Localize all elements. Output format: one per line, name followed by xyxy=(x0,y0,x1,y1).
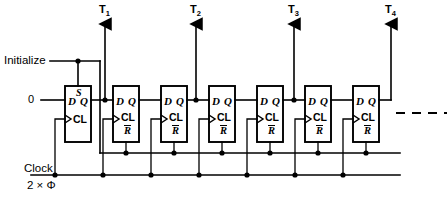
junction-clock-ff7 xyxy=(340,172,345,177)
ff3-q-label: Q xyxy=(176,96,184,107)
ff2-d-label: D xyxy=(116,96,124,107)
junction-reset-ff7 xyxy=(363,150,368,155)
wire-clock-ff5 xyxy=(247,119,257,175)
ff7-q-label: Q xyxy=(368,96,376,107)
ff1-clock-label: CL xyxy=(73,114,87,125)
junction-clock-ff5 xyxy=(244,172,249,177)
input-label-data-zero: 0 xyxy=(28,94,34,105)
ff2-reset-label: R xyxy=(124,125,131,137)
junction-clock-ff4 xyxy=(196,172,201,177)
wire-clock-ff4 xyxy=(199,119,209,175)
ff7-clock-label: CL xyxy=(361,112,375,123)
input-label-clock-rate: 2 × Φ xyxy=(27,180,56,192)
ff2-q-label: Q xyxy=(128,96,136,107)
ff4-clock-label: CL xyxy=(217,112,231,123)
ff5-d-label: D xyxy=(260,96,268,107)
junction-reset-ff5 xyxy=(267,150,272,155)
junction-clock-ff3 xyxy=(148,172,153,177)
ff1-q-label: Q xyxy=(80,96,88,107)
circuit-diagram: T1 T2 T3 T4 Initialize 0 Clock 2 × Φ S D… xyxy=(0,0,447,199)
ff3-d-label: D xyxy=(164,96,172,107)
ff7-d-label: D xyxy=(356,96,364,107)
junction-tap-t3 xyxy=(291,97,296,102)
wire-clock-ff1 xyxy=(55,119,65,175)
junction-clock-ff6 xyxy=(292,172,297,177)
wire-clock-ff6 xyxy=(295,119,305,175)
wire-clock-ff3 xyxy=(151,119,161,175)
junction-reset-ff2 xyxy=(123,150,128,155)
junction-clock-ff1 xyxy=(52,172,57,177)
junction-reset-ff3 xyxy=(171,150,176,155)
output-label-t3: T3 xyxy=(288,4,299,18)
ff3-clock-label: CL xyxy=(169,112,183,123)
ff5-reset-label: R xyxy=(268,125,275,137)
ff2-clock-label: CL xyxy=(121,112,135,123)
ff4-reset-label: R xyxy=(220,125,227,137)
junction-tap-t1 xyxy=(102,97,107,102)
wire-clock-ff7 xyxy=(343,119,353,175)
output-label-t2: T2 xyxy=(190,4,201,18)
input-label-initialize: Initialize xyxy=(4,55,46,67)
junction-tap-t2 xyxy=(193,97,198,102)
output-label-t1: T1 xyxy=(99,4,110,18)
wire-clock-ff2 xyxy=(103,119,113,175)
ff5-q-label: Q xyxy=(272,96,280,107)
junction-clock-ff2 xyxy=(100,172,105,177)
input-label-clock: Clock xyxy=(24,163,53,175)
ff4-q-label: Q xyxy=(224,96,232,107)
ff3-reset-label: R xyxy=(172,125,179,137)
ff6-reset-label: R xyxy=(316,125,323,137)
ff6-clock-label: CL xyxy=(313,112,327,123)
ff7-reset-label: R xyxy=(364,125,371,137)
junction-reset-ff4 xyxy=(219,150,224,155)
ff6-q-label: Q xyxy=(320,96,328,107)
ff5-clock-label: CL xyxy=(265,112,279,123)
ff6-d-label: D xyxy=(308,96,316,107)
junction-reset-ff6 xyxy=(315,150,320,155)
output-label-t4: T4 xyxy=(385,4,396,18)
ff4-d-label: D xyxy=(212,96,220,107)
ff1-d-label: D xyxy=(68,96,76,107)
